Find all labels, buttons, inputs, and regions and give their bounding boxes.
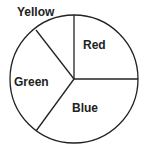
pie-chart: Yellow Red Green Blue xyxy=(0,0,145,151)
label-blue: Blue xyxy=(72,101,98,115)
label-yellow: Yellow xyxy=(17,5,55,19)
label-red: Red xyxy=(83,38,106,52)
label-green: Green xyxy=(14,75,49,89)
